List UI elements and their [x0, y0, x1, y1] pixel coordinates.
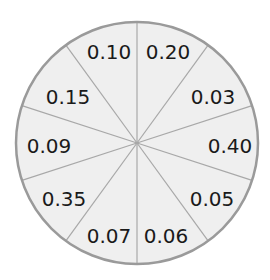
probability-wheel: 0.200.030.400.050.060.070.350.090.150.10	[0, 0, 270, 280]
sector-label: 0.35	[42, 187, 87, 211]
sector-label: 0.20	[146, 40, 191, 64]
sector-label: 0.07	[87, 224, 132, 248]
sector-label: 0.40	[208, 134, 253, 158]
sector-label: 0.03	[191, 85, 236, 109]
sector-label: 0.09	[27, 134, 72, 158]
sector-label: 0.10	[87, 40, 132, 64]
sector-label: 0.06	[144, 224, 189, 248]
sector-label: 0.05	[190, 187, 235, 211]
sector-label: 0.15	[46, 85, 91, 109]
